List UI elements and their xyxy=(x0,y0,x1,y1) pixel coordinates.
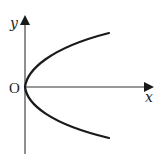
x-axis-label: x xyxy=(145,89,153,105)
origin-label: O xyxy=(9,80,20,96)
y-axis-label: y xyxy=(9,15,19,31)
parabola-diagram: y x O xyxy=(0,0,155,162)
parabola-upper-branch xyxy=(25,33,109,87)
parabola-lower-branch xyxy=(25,87,109,138)
